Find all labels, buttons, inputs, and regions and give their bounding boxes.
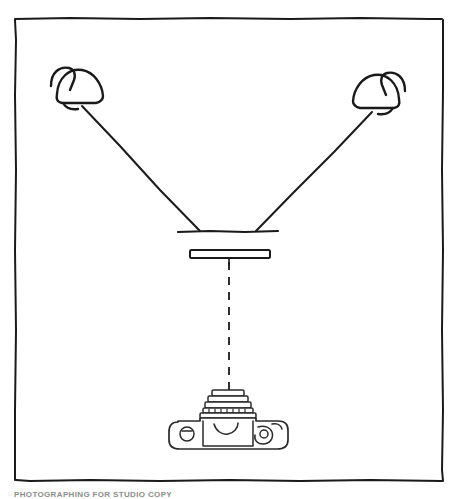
- frame-right-edge: [442, 20, 443, 481]
- camera-lens-ring-1: [212, 390, 244, 396]
- frame-left-edge: [15, 20, 16, 480]
- frame-bottom-edge: [16, 480, 442, 481]
- figure-caption-text: PHOTOGRAPHING FOR STUDIO COPY: [14, 490, 434, 499]
- camera-lens-ring-3: [205, 402, 251, 408]
- lens-element-body: [190, 250, 270, 258]
- lighting-diagram-figure: PHOTOGRAPHING FOR STUDIO COPY: [0, 0, 458, 499]
- camera-grip-dial: [260, 430, 268, 438]
- diagram-canvas: [0, 0, 458, 499]
- frame-top-edge: [15, 18, 442, 19]
- subject-plane-line: [178, 231, 278, 232]
- camera-rewind-dial: [180, 427, 194, 441]
- figure-caption: PHOTOGRAPHING FOR STUDIO COPY: [14, 490, 434, 499]
- camera-lens-ring-2: [208, 396, 248, 402]
